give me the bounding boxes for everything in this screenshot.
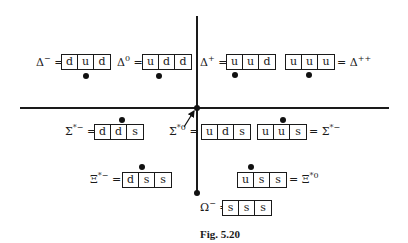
quark-cell: u [202,125,218,139]
quark-cell: s [223,201,239,215]
quark-cell: s [139,173,155,187]
delta-zero-dot [156,73,162,79]
quark-cell: u [78,55,94,69]
horizontal-axis [20,107,389,109]
quark-cell: d [62,55,78,69]
xi-star-minus-quark-box: d s s [122,172,172,188]
sigma-star-zero-quark-box: u d s [201,124,251,140]
quark-cell: s [127,125,143,139]
delta-minus-label: Δ− = [36,56,63,70]
figure-caption: Fig. 5.20 [200,228,240,240]
delta-zero-quark-box: u d d [142,54,192,70]
quark-cell: s [254,173,270,187]
xi-star-minus-label: Ξ*− = [90,173,121,187]
delta-minus-quark-box: d u d [61,54,111,70]
quark-cell: s [155,173,171,187]
sigma-star-right-quark-box: u u s [257,124,307,140]
quark-cell: d [123,173,139,187]
quark-cell: d [218,125,234,139]
quark-cell: d [111,125,127,139]
quark-cell: s [270,173,286,187]
quark-cell: d [95,125,111,139]
delta-minus-dot [83,73,89,79]
delta-plusplus-label: = Δ++ [337,56,371,70]
quark-cell: u [274,125,290,139]
sigma-star-minus-label: Σ*− = [65,125,96,139]
quark-cell: u [318,55,334,69]
quark-cell: u [238,173,254,187]
origin-dot [194,105,200,111]
quark-cell: d [94,55,110,69]
delta-plus-label: Δ+ = [200,56,227,70]
xi-star-zero-label: = Ξ*0 [289,173,319,187]
omega-minus-dot [194,190,200,196]
delta-plus-quark-box: u u d [226,54,276,70]
delta-plus-dot [232,72,238,78]
delta-plusplus-dot [306,72,312,78]
sigma-star-minus-dot [119,117,125,123]
delta-plusplus-quark-box: u u u [285,54,335,70]
quark-cell: u [143,55,159,69]
quark-cell: s [234,125,250,139]
quark-cell: s [239,201,255,215]
sigma-star-right-dot [280,117,286,123]
quark-cell: d [175,55,191,69]
delta-zero-label: Δ0 = [117,56,143,70]
quark-cell: u [286,55,302,69]
quark-cell: s [290,125,306,139]
quark-cell: u [258,125,274,139]
xi-star-minus-dot [139,164,145,170]
sigma-star-zero-label: Σ*0 = [169,125,199,139]
quark-cell: u [302,55,318,69]
quark-cell: u [243,55,259,69]
xi-star-zero-quark-box: u s s [237,172,287,188]
sigma-star-right-label: = Σ*− [309,125,340,139]
xi-star-zero-dot [248,164,254,170]
quark-cell: s [255,201,271,215]
quark-cell: u [227,55,243,69]
quark-cell: d [259,55,275,69]
sigma-star-minus-quark-box: d d s [94,124,144,140]
quark-cell: d [159,55,175,69]
omega-minus-quark-box: s s s [222,200,272,216]
